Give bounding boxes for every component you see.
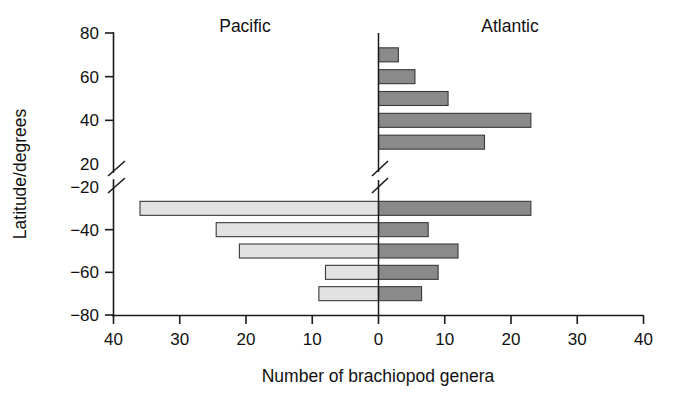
bar-atlantic-50 xyxy=(379,92,449,106)
y-tick-label: −60 xyxy=(70,263,99,282)
y-axis-title: Latitude/degrees xyxy=(10,109,30,240)
x-tick-label: 30 xyxy=(568,330,587,349)
y-tick-label: −80 xyxy=(70,306,99,325)
bar-atlantic-neg70 xyxy=(379,287,422,301)
bar-pacific-neg70 xyxy=(319,287,379,301)
x-tick-label: 30 xyxy=(170,330,189,349)
bar-atlantic-30 xyxy=(379,135,485,149)
bar-atlantic-neg30 xyxy=(379,201,531,215)
bar-atlantic-neg40 xyxy=(379,223,429,237)
x-tick-label: 20 xyxy=(502,330,521,349)
bar-pacific-neg30 xyxy=(140,201,379,215)
x-tick-label: 40 xyxy=(104,330,123,349)
y-tick-label: 60 xyxy=(80,68,99,87)
chart-svg: 40302010010203040 80604020−20−40−60−80 P… xyxy=(0,0,677,409)
bar-atlantic-40 xyxy=(379,113,531,127)
y-tick-label: −40 xyxy=(70,221,99,240)
bar-atlantic-60 xyxy=(379,70,415,84)
x-axis-tick-labels: 40302010010203040 xyxy=(104,330,653,349)
bar-pacific-neg60 xyxy=(326,265,379,279)
y-tick-label: −20 xyxy=(70,178,99,197)
y-tick-label: 20 xyxy=(80,155,99,174)
series-label-atlantic: Atlantic xyxy=(481,16,539,36)
x-tick-label: 10 xyxy=(303,330,322,349)
bar-atlantic-neg50 xyxy=(379,244,459,258)
bar-pacific-neg50 xyxy=(239,244,378,258)
x-tick-label: 10 xyxy=(435,330,454,349)
y-tick-label: 80 xyxy=(80,24,99,43)
series-label-pacific: Pacific xyxy=(219,16,271,36)
bar-pacific-neg40 xyxy=(216,223,378,237)
x-tick-label: 0 xyxy=(374,330,383,349)
brachiopod-latitude-chart: 40302010010203040 80604020−20−40−60−80 P… xyxy=(0,0,677,409)
x-axis-title: Number of brachiopod genera xyxy=(262,366,495,386)
x-tick-label: 20 xyxy=(237,330,256,349)
x-tick-label: 40 xyxy=(634,330,653,349)
bar-atlantic-neg60 xyxy=(379,265,439,279)
bar-atlantic-70 xyxy=(379,48,399,62)
y-tick-label: 40 xyxy=(80,111,99,130)
